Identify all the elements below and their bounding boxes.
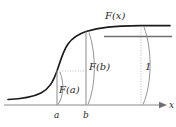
x-tick-label-a: a <box>54 110 59 120</box>
f-of-a-label: F(a) <box>58 84 80 95</box>
total-one-label: 1 <box>145 61 151 72</box>
x-axis-label: x <box>169 100 174 110</box>
curve-label: F(x) <box>104 10 125 21</box>
cdf-plot-svg: F(x) F(b) F(a) 1 a b x <box>0 0 176 127</box>
cdf-figure: F(x) F(b) F(a) 1 a b x <box>0 0 176 127</box>
x-axis-arrow-icon <box>159 102 167 108</box>
x-tick-label-b: b <box>83 110 89 120</box>
f-of-b-label: F(b) <box>88 61 110 72</box>
